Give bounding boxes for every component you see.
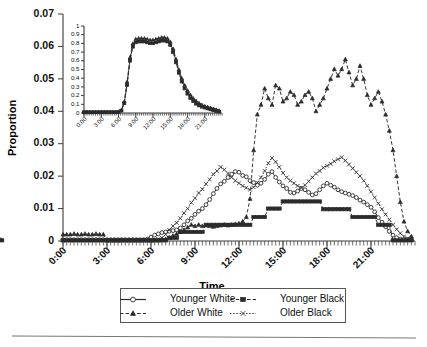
legend-label: Older White	[170, 307, 223, 318]
data-point-marker	[347, 70, 351, 74]
data-point-marker	[266, 172, 270, 176]
data-point-marker	[101, 232, 105, 236]
data-point-marker	[292, 181, 296, 185]
data-point-marker	[255, 215, 259, 218]
inset-y-axis-ticks: 00.10.20.30.40.50.60.70.80.91	[71, 22, 84, 116]
y-tick-label: 0.07	[34, 7, 55, 19]
x-tick-label: 21:00	[351, 244, 377, 270]
x-tick-label: 3:00	[90, 244, 112, 266]
data-point-marker	[354, 77, 358, 81]
data-point-marker	[343, 159, 347, 163]
data-point-marker	[332, 67, 336, 71]
inset-x-tick-label: 18:00	[176, 115, 191, 130]
series-younger-white	[0, 170, 413, 242]
data-point-marker	[376, 201, 380, 205]
data-point-marker	[380, 223, 384, 226]
data-point-marker	[186, 225, 190, 229]
data-point-marker	[219, 182, 223, 186]
data-point-marker	[189, 230, 193, 233]
data-point-marker	[321, 96, 325, 100]
data-point-marker	[226, 172, 230, 176]
data-point-marker	[83, 232, 87, 236]
proportion-by-time-chart: 00.010.020.030.040.050.060.07 0:003:006:…	[0, 0, 427, 347]
x-tick-label: 9:00	[178, 244, 200, 266]
inset-x-tick-label: 0:00	[75, 116, 88, 129]
data-point-marker	[171, 229, 175, 233]
series-path	[63, 59, 411, 240]
data-point-marker	[288, 179, 292, 183]
data-point-marker	[310, 176, 314, 180]
data-point-marker	[178, 216, 182, 220]
data-point-marker	[358, 198, 362, 202]
inset-x-tick-label: 9:00	[127, 116, 140, 129]
data-point-marker	[263, 86, 267, 90]
data-point-marker	[406, 229, 410, 233]
data-point-marker	[347, 208, 351, 211]
data-point-marker	[215, 169, 219, 173]
data-point-marker	[160, 36, 163, 39]
data-point-marker	[299, 99, 303, 103]
data-point-marker	[270, 103, 274, 107]
data-point-marker	[358, 215, 362, 218]
data-point-marker	[241, 297, 246, 301]
data-point-marker	[211, 192, 215, 196]
data-point-marker	[373, 210, 377, 214]
data-point-marker	[365, 93, 369, 97]
page-footer-rule	[12, 336, 416, 338]
data-point-marker	[134, 37, 137, 40]
data-point-marker	[208, 177, 212, 181]
data-point-marker	[376, 223, 380, 226]
data-point-marker	[274, 83, 278, 87]
data-point-marker	[266, 207, 270, 210]
data-point-marker	[347, 163, 351, 167]
inset-series-older-white	[82, 36, 220, 114]
data-point-marker	[321, 184, 325, 188]
data-point-marker	[307, 179, 311, 183]
inset-y-tick-label: 0.8	[71, 39, 80, 46]
data-point-marker	[365, 203, 369, 207]
data-point-marker	[255, 112, 259, 116]
data-point-marker	[197, 223, 201, 227]
data-point-marker	[314, 172, 318, 176]
data-point-marker	[175, 236, 179, 239]
data-point-marker	[303, 200, 307, 203]
inset-x-tick-label: 6:00	[110, 116, 123, 129]
data-point-marker	[281, 200, 285, 203]
data-point-marker	[204, 203, 208, 207]
data-point-marker	[365, 215, 369, 218]
data-point-marker	[354, 170, 358, 174]
data-point-marker	[358, 64, 362, 68]
data-point-marker	[171, 224, 175, 228]
data-point-marker	[391, 223, 395, 227]
data-point-marker	[340, 208, 344, 211]
series-path	[63, 201, 411, 240]
data-point-marker	[343, 208, 347, 211]
data-point-marker	[281, 184, 285, 188]
data-point-marker	[288, 190, 292, 194]
data-point-marker	[314, 109, 318, 113]
data-point-marker	[340, 67, 344, 71]
data-point-marker	[270, 156, 274, 160]
data-point-marker	[186, 230, 190, 233]
data-point-marker	[296, 184, 300, 188]
data-point-marker	[387, 129, 391, 133]
data-point-marker	[137, 36, 140, 39]
inset-y-tick-label: 0.7	[71, 48, 80, 55]
data-point-marker	[292, 191, 296, 195]
inset-y-tick-label: 0.4	[71, 74, 80, 81]
data-point-marker	[149, 38, 152, 41]
data-point-marker	[270, 170, 274, 174]
data-point-marker	[395, 227, 399, 231]
x-tick-label: 6:00	[134, 244, 156, 266]
data-point-marker	[332, 208, 336, 211]
data-point-marker	[318, 188, 322, 192]
data-point-marker	[197, 191, 201, 195]
x-tick-label: 12:00	[219, 244, 245, 270]
data-point-marker	[208, 198, 212, 202]
data-point-marker	[163, 36, 166, 39]
data-point-marker	[384, 213, 388, 217]
data-point-marker	[248, 188, 252, 192]
data-point-marker	[154, 37, 157, 40]
data-point-marker	[376, 90, 380, 94]
inset-x-axis-ticks: 0:003:006:009:0012:0015:0018:0021:00	[75, 113, 209, 131]
